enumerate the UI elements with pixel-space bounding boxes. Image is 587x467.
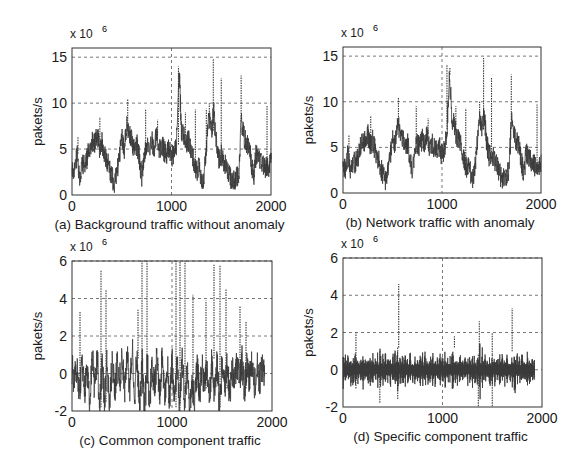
y-multiplier-exponent: 6 (102, 24, 107, 34)
y-multiplier-exponent: 6 (373, 234, 378, 244)
subplot-caption: (d) Specific component traffic (353, 429, 528, 444)
y-tick-label: 0 (59, 187, 67, 203)
y-axis-label: pakets/s (30, 97, 45, 146)
x-tick-label: 1000 (156, 198, 187, 214)
series-trace (72, 339, 265, 411)
x-tick-label: 2000 (525, 196, 556, 212)
subplot-b: 051015010002000x 106pakets/s(b) Network … (301, 23, 557, 230)
series-trace (343, 344, 535, 400)
y-axis-label: pakets/s (301, 95, 316, 144)
y-tick-label: 0 (330, 362, 338, 378)
x-tick-label: 2000 (526, 410, 557, 426)
y-axis-label: pakets/s (301, 308, 316, 357)
y-multiplier-exponent: 6 (373, 23, 378, 33)
subplot-caption: (a) Background traffic without anomaly (54, 217, 284, 232)
x-tick-label: 0 (339, 410, 347, 426)
y-tick-label: 5 (330, 139, 338, 155)
y-multiplier-exponent: 6 (102, 237, 107, 247)
y-tick-label: -2 (326, 399, 339, 415)
y-tick-label: 15 (51, 49, 67, 65)
y-multiplier: x 10 (341, 237, 364, 251)
subplot-caption: (c) Common component traffic (79, 433, 261, 448)
y-tick-label: 15 (322, 48, 338, 64)
x-tick-label: 1000 (426, 196, 457, 212)
y-multiplier: x 10 (70, 240, 93, 254)
x-tick-label: 1000 (427, 410, 458, 426)
x-tick-label: 0 (68, 198, 76, 214)
x-tick-label: 0 (339, 196, 347, 212)
y-tick-label: 10 (322, 94, 338, 110)
y-axis-label: pakets/s (30, 311, 45, 360)
subplot-a: 051015010002000x 106pakets/s(a) Backgrou… (30, 24, 287, 232)
y-tick-label: 6 (330, 250, 338, 266)
y-tick-label: 5 (59, 141, 67, 157)
y-tick-label: 2 (59, 328, 67, 344)
y-tick-label: 4 (59, 291, 67, 307)
y-tick-label: 2 (330, 325, 338, 341)
subplot-c: -20246010002000x 106pakets/s(c) Common c… (30, 237, 288, 448)
y-tick-label: -2 (55, 403, 68, 419)
y-tick-label: 4 (330, 287, 338, 303)
x-tick-label: 2000 (255, 198, 286, 214)
figure-canvas: 051015010002000x 106pakets/s(a) Backgrou… (0, 0, 587, 467)
subplot-caption: (b) Network traffic with anomaly (346, 215, 535, 230)
x-tick-label: 0 (68, 414, 76, 430)
y-tick-label: 0 (59, 366, 67, 382)
y-tick-label: 0 (330, 185, 338, 201)
x-tick-label: 1000 (156, 414, 187, 430)
y-tick-label: 6 (59, 253, 67, 269)
y-multiplier: x 10 (70, 27, 93, 41)
y-tick-label: 10 (51, 95, 67, 111)
x-tick-label: 2000 (256, 414, 287, 430)
y-multiplier: x 10 (341, 26, 364, 40)
subplot-d: -20246010002000x 106pakets/s(d) Specific… (301, 234, 558, 444)
